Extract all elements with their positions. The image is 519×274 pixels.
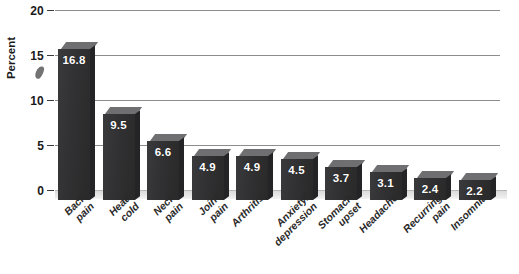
bar-value-label: 3.1 (370, 177, 402, 189)
bar-value-label: 9.5 (103, 119, 135, 131)
bar-value-label: 16.8 (58, 54, 90, 66)
bar-chart: 20 15 10 5 0 Percent 16.89.56.64.94.94.5… (0, 0, 519, 274)
y-tick-mark-15 (47, 55, 54, 56)
bar-side-face (135, 110, 140, 200)
y-tick-label-5: 5 (0, 139, 44, 153)
y-tick-mark-5 (47, 145, 54, 146)
bar-value-label: 4.9 (192, 161, 224, 173)
y-axis-title: Percent (5, 13, 17, 103)
plot-area: 16.89.56.64.94.94.53.73.12.42.2 (55, 10, 500, 190)
bar-front-face (58, 49, 90, 200)
y-tick-mark-20 (47, 10, 54, 11)
y-tick-mark-0 (47, 190, 54, 191)
bar-value-label: 4.9 (236, 161, 268, 173)
bar-series: 16.89.56.64.94.94.53.73.12.42.2 (55, 10, 500, 200)
bar-side-face (179, 137, 184, 200)
y-tick-mark-10 (47, 100, 54, 101)
bar-value-label: 6.6 (147, 146, 179, 158)
x-axis-labels: Back painHead coldNeck painJoint painArt… (55, 192, 515, 274)
y-tick-label-0: 0 (0, 184, 44, 198)
bar-side-face (90, 45, 95, 200)
bar-value-label: 3.7 (325, 172, 357, 184)
bar-value-label: 4.5 (281, 164, 313, 176)
